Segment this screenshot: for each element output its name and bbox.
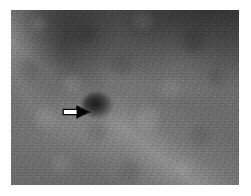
page-margin-bottom [0,185,251,196]
figure-canvas [0,0,251,196]
page-margin-left [0,0,11,196]
page-margin-right [239,0,251,196]
arrow-annotation-icon [62,105,90,119]
page-margin-top [0,0,251,10]
scan-image-plate [11,10,239,185]
tissue-mottle-layer [11,10,239,185]
tissue-tone-layer [11,10,239,185]
scanline-texture-layer [11,10,239,185]
tissue-grain-layer [11,10,239,185]
